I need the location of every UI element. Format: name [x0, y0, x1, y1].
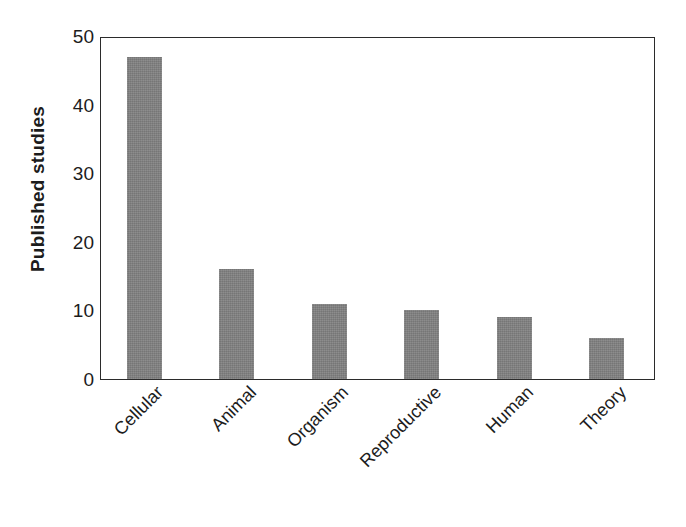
y-tick-label: 20 — [52, 232, 94, 254]
bar — [589, 338, 624, 379]
bar — [497, 317, 532, 379]
y-axis-title: Published studies — [27, 89, 49, 289]
bar — [219, 269, 254, 379]
bar-chart: Published studies 01020304050 CellularAn… — [0, 0, 686, 527]
bar — [127, 57, 162, 379]
bars-layer — [101, 38, 654, 379]
y-tick-label: 30 — [52, 163, 94, 185]
bar — [404, 310, 439, 379]
y-tick-label: 50 — [52, 26, 94, 48]
x-axis-tick-labels: CellularAnimalOrganismReproductiveHumanT… — [100, 382, 655, 522]
y-axis-tick-labels: 01020304050 — [52, 37, 94, 380]
y-tick-label: 10 — [52, 300, 94, 322]
y-tick-label: 0 — [52, 369, 94, 391]
bar — [312, 304, 347, 379]
plot-area — [100, 37, 655, 380]
y-tick-label: 40 — [52, 95, 94, 117]
